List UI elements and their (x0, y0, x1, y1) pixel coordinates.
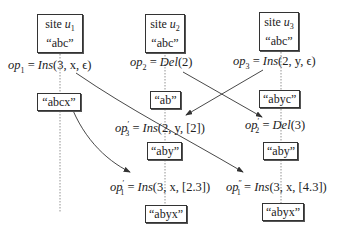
state-u3-aby: “aby” (263, 142, 298, 160)
site-sub: 1 (71, 24, 75, 33)
state-u2-abyx: “abyx” (145, 205, 187, 223)
site-u1-box: site u1 “abc” (37, 14, 83, 53)
site-sub: 2 (176, 24, 180, 33)
op1-prime-label: op′1 = Ins(3, x, [2.3]) (110, 177, 210, 200)
site-u2-initial: “abc” (149, 36, 181, 50)
site-u3-initial: “abc” (263, 34, 295, 48)
op3-prime-label: op′3 = Ins(2, y, [2]) (115, 118, 205, 141)
op2-prime-label: op′2 = Del(3) (245, 115, 305, 138)
site-label: site (264, 15, 281, 29)
op3-label: op3 = Ins(2, y, ϵ) (233, 54, 316, 74)
state-u3-abyc: “abyc” (259, 90, 300, 108)
op2-label: op2 = Del(2) (130, 55, 192, 75)
state-u2-aby: “aby” (147, 142, 182, 160)
site-u3-box: site u3 “abc” (259, 12, 299, 51)
arrow-op3-to-u2 (186, 70, 263, 115)
site-sub: 3 (290, 22, 294, 31)
site-label: site (150, 17, 167, 31)
state-u2-ab: “ab” (150, 91, 181, 109)
op1-label: op1 = Ins(3, x, ϵ) (8, 58, 91, 78)
state-u1-abcx: “abcx” (37, 93, 81, 111)
op1-double-prime-label: op″1 = Ins(3, x, [4.3]) (226, 177, 327, 200)
site-u2-box: site u2 “abc” (145, 14, 185, 53)
state-u3-abyx: “abyx” (262, 203, 304, 221)
site-label: site (45, 17, 62, 31)
site-u1-initial: “abc” (41, 36, 79, 50)
